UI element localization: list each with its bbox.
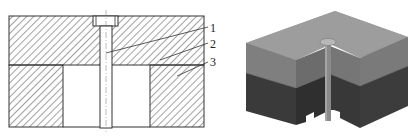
3d-render-svg (240, 0, 417, 140)
cross-section-svg: 1 2 3 (0, 0, 240, 140)
pin-head (93, 16, 118, 26)
pin-shaft (100, 10, 112, 132)
cross-section-drawing: 1 2 3 (0, 0, 240, 140)
callout-2: 2 (210, 37, 216, 51)
bottom-left-block (9, 65, 63, 127)
callout-1: 1 (210, 21, 216, 35)
bottom-right-block (150, 65, 204, 127)
callout-3: 3 (210, 55, 216, 69)
3d-render (240, 0, 417, 140)
